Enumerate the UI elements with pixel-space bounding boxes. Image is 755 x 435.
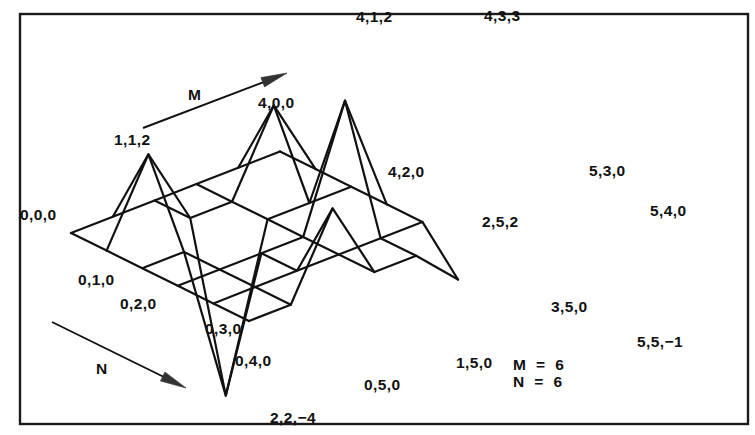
n-arrow-icon bbox=[160, 372, 186, 388]
mesh-line bbox=[280, 152, 458, 280]
parameter-text-group: M = 6N = 6 bbox=[513, 356, 564, 390]
axis-arrows-group: MN bbox=[52, 73, 287, 388]
vertex-label-3-5: 3,5,0 bbox=[551, 298, 587, 315]
m-axis-label: M bbox=[188, 86, 201, 103]
vertex-label-0-4: 0,4,0 bbox=[235, 352, 271, 369]
mesh-line bbox=[196, 184, 374, 272]
vertex-label-0-2: 0,2,0 bbox=[120, 295, 156, 312]
m-axis-line bbox=[143, 79, 272, 128]
vertex-label-1-1: 1,1,2 bbox=[114, 131, 150, 148]
vertex-label-5-3: 5,3,0 bbox=[589, 162, 625, 179]
vertex-labels-group: 0,0,00,1,00,2,00,3,00,4,00,5,01,1,21,5,0… bbox=[20, 7, 686, 426]
n-axis-label: N bbox=[96, 360, 107, 377]
surface-plot-canvas: MN 0,0,00,1,00,2,00,3,00,4,00,5,01,1,21,… bbox=[0, 0, 755, 435]
m-arrow-icon bbox=[261, 73, 287, 87]
vertex-label-4-1: 4,1,2 bbox=[356, 8, 392, 25]
frame-border bbox=[20, 14, 748, 424]
parameter-line-1: N = 6 bbox=[513, 373, 563, 390]
vertex-label-2-5: 2,5,2 bbox=[482, 213, 518, 230]
vertex-label-0-3: 0,3,0 bbox=[205, 320, 241, 337]
vertex-label-2-2: 2,2,−4 bbox=[270, 409, 316, 426]
n-axis-line bbox=[52, 322, 168, 379]
vertex-label-0-1: 0,1,0 bbox=[78, 271, 114, 288]
parameter-line-0: M = 6 bbox=[513, 356, 564, 373]
vertex-label-1-5: 1,5,0 bbox=[456, 354, 492, 371]
figure-root: MN 0,0,00,1,00,2,00,3,00,4,00,5,01,1,21,… bbox=[0, 0, 755, 435]
vertex-label-4-3: 4,3,3 bbox=[484, 7, 520, 24]
vertex-label-0-0: 0,0,0 bbox=[20, 206, 56, 223]
frame-border-group bbox=[20, 14, 748, 424]
vertex-label-0-5: 0,5,0 bbox=[364, 376, 400, 393]
vertex-label-5-5: 5,5,−1 bbox=[637, 333, 683, 350]
vertex-label-5-4: 5,4,0 bbox=[650, 202, 686, 219]
vertex-label-4-0: 4,0,0 bbox=[258, 94, 294, 111]
vertex-label-4-2: 4,2,0 bbox=[388, 163, 424, 180]
